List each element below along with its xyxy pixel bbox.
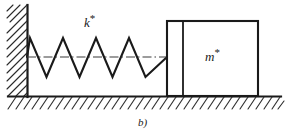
spring-constant-label: k* (84, 13, 95, 29)
mass-spring-figure: k* m* b) (0, 0, 289, 137)
spring-group (27, 38, 167, 77)
ground-hatching (8, 97, 284, 109)
mass-label: m* (205, 47, 220, 63)
figure-caption: b) (138, 117, 147, 128)
spring-constant-label-superscript: * (90, 12, 96, 24)
wall-hatching (7, 5, 27, 96)
mass-label-base: m (205, 49, 214, 64)
wall-group (7, 5, 28, 97)
ground-group (8, 97, 284, 110)
mass-label-superscript: * (214, 46, 220, 58)
